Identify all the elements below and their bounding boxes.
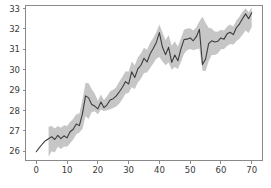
y-tick-label: 32 <box>9 24 20 34</box>
x-tick-label: 40 <box>154 165 165 175</box>
y-tick-label: 29 <box>9 85 20 95</box>
y-tick-label: 30 <box>9 65 20 75</box>
y-tick-label: 33 <box>9 4 20 14</box>
x-tick-label: 30 <box>123 165 134 175</box>
y-tick-label: 26 <box>9 146 20 156</box>
y-tick-label: 27 <box>9 126 20 136</box>
y-tick-label: 28 <box>9 106 20 116</box>
x-tick-label: 70 <box>246 165 257 175</box>
x-tick-label: 0 <box>34 165 39 175</box>
chart-figure: 2627282930313233 010203040506070 <box>0 0 271 188</box>
x-tick-label: 10 <box>62 165 73 175</box>
x-tick-label: 60 <box>216 165 227 175</box>
y-tick-label: 31 <box>9 44 20 54</box>
x-tick-label: 20 <box>92 165 103 175</box>
x-tick-label: 50 <box>185 165 196 175</box>
line-chart-with-confidence-band: 2627282930313233 010203040506070 <box>0 0 271 188</box>
